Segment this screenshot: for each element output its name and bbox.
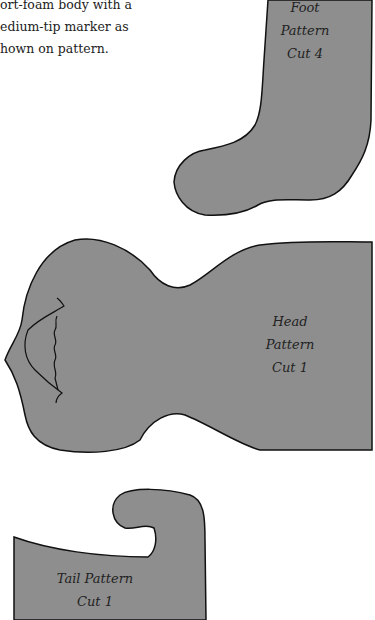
tail-pattern-label: Tail Pattern Cut 1 — [30, 567, 160, 613]
head-pattern-label: Head Pattern Cut 1 — [240, 310, 340, 379]
foot-pattern-label: Foot Pattern Cut 4 — [255, 0, 355, 65]
